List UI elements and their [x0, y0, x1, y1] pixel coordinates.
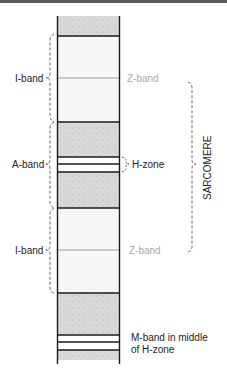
dark-band-tail — [58, 350, 119, 360]
dark-band-a-upper — [58, 122, 119, 157]
sarcomere-label: SARCOMERE — [202, 135, 213, 200]
m-band-upper — [58, 335, 119, 342]
h-zone-upper — [58, 157, 119, 164]
h-zone-bracket — [122, 157, 129, 172]
m-band-lower — [58, 342, 119, 350]
i-band-bottom-bracket — [46, 208, 54, 293]
i-band-top-label: I-band — [15, 73, 43, 84]
dark-band-top — [58, 16, 119, 36]
h-zone-lower — [58, 164, 119, 172]
a-band-bracket — [46, 122, 54, 208]
i-band-bottom-label: I-band — [15, 245, 43, 256]
sarcomere-diagram: I-band Z-band A-band H-zone SARCOMERE I-… — [0, 0, 227, 377]
z-band-top-label: Z-band — [127, 73, 159, 84]
a-band-label: A-band — [12, 159, 44, 170]
sarcomere-bracket — [188, 82, 196, 252]
m-band-label-line2: of H-zone — [131, 344, 175, 355]
z-band-bottom-label: Z-band — [129, 245, 161, 256]
m-band-label-line1: M-band in middle — [131, 332, 208, 343]
dark-band-a-lower — [58, 172, 119, 208]
dark-band-bottom — [58, 293, 119, 335]
h-zone-label: H-zone — [132, 159, 165, 170]
i-band-top-bracket — [46, 34, 54, 122]
light-band-i-top — [58, 36, 119, 122]
